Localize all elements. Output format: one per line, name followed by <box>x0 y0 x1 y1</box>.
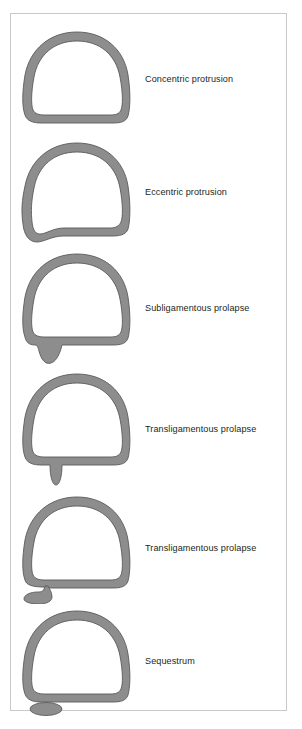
label-eccentric-protrusion: Eccentric protrusion <box>145 187 288 198</box>
shape-cell-4 <box>11 369 143 489</box>
shape-cell-5 <box>11 492 143 604</box>
concentric-protrusion-diagram <box>18 27 136 131</box>
label-transligamentous-prolapse-1: Transligamentous prolapse <box>145 424 288 435</box>
shape-cell-1 <box>11 27 143 131</box>
figure-border: Concentric protrusion Eccentric protrusi… <box>10 13 287 711</box>
label-cell-1: Concentric protrusion <box>143 74 288 85</box>
eccentric-protrusion-diagram <box>18 138 136 246</box>
row-transligamentous-prolapse-1: Transligamentous prolapse <box>11 368 288 490</box>
label-concentric-protrusion: Concentric protrusion <box>145 74 288 85</box>
row-transligamentous-prolapse-2: Transligamentous prolapse <box>11 490 288 606</box>
label-cell-5: Transligamentous prolapse <box>143 543 288 554</box>
transligamentous-prolapse-diagram-1 <box>18 369 136 489</box>
sequestrum-diagram <box>18 606 136 716</box>
shape-cell-3 <box>11 249 143 367</box>
shape-cell-6 <box>11 606 143 716</box>
disc-herniation-figure: Concentric protrusion Eccentric protrusi… <box>0 0 302 729</box>
shape-cell-2 <box>11 138 143 246</box>
row-subligamentous-prolapse: Subligamentous prolapse <box>11 248 288 368</box>
subligamentous-prolapse-diagram <box>18 249 136 367</box>
transligamentous-prolapse-diagram-2 <box>18 492 136 604</box>
label-transligamentous-prolapse-2: Transligamentous prolapse <box>145 543 288 554</box>
label-cell-3: Subligamentous prolapse <box>143 303 288 314</box>
label-cell-4: Transligamentous prolapse <box>143 424 288 435</box>
row-sequestrum: Sequestrum <box>11 606 288 716</box>
label-sequestrum: Sequestrum <box>145 656 288 667</box>
label-cell-2: Eccentric protrusion <box>143 187 288 198</box>
label-cell-6: Sequestrum <box>143 656 288 667</box>
label-subligamentous-prolapse: Subligamentous prolapse <box>145 303 288 314</box>
row-concentric-protrusion: Concentric protrusion <box>11 24 288 134</box>
row-eccentric-protrusion: Eccentric protrusion <box>11 136 288 248</box>
